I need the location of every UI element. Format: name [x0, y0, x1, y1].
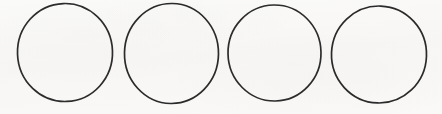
circles-svg [0, 0, 442, 114]
circle-outline-3 [227, 4, 322, 102]
circle-outline-4 [330, 4, 428, 104]
circle-outline-1 [16, 2, 114, 103]
image-canvas [0, 0, 442, 114]
circle-outline-2 [124, 3, 220, 105]
shapes-layer [0, 0, 442, 114]
